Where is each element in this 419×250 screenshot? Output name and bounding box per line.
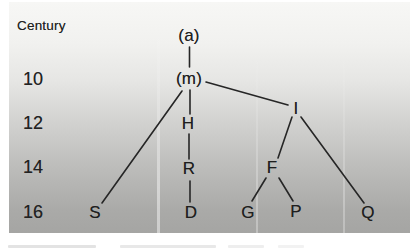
node-i: I [294, 99, 299, 119]
node-q: Q [361, 203, 374, 223]
century-axis-title: Century [17, 18, 66, 33]
node-h: H [182, 114, 194, 134]
cutoff-text-artifact [8, 245, 96, 248]
node-f: F [267, 158, 278, 178]
tick-century-16: 16 [23, 202, 43, 223]
node-a: (a) [178, 26, 199, 46]
stemma-figure: Century 10 12 14 16 (a) (m) H I R F S D … [0, 0, 419, 250]
node-p: P [290, 202, 302, 222]
tick-century-14: 14 [23, 157, 43, 178]
cutoff-text-artifact [120, 245, 216, 248]
figure-background-panel [9, 2, 410, 233]
node-s: S [89, 203, 101, 223]
node-m: (m) [176, 69, 202, 89]
node-d: D [185, 203, 197, 223]
cutoff-text-artifact [278, 245, 304, 248]
node-r: R [183, 159, 195, 179]
cutoff-text-artifact [228, 245, 264, 248]
tick-century-12: 12 [23, 113, 43, 134]
tick-century-10: 10 [23, 69, 43, 90]
node-g: G [241, 203, 254, 223]
